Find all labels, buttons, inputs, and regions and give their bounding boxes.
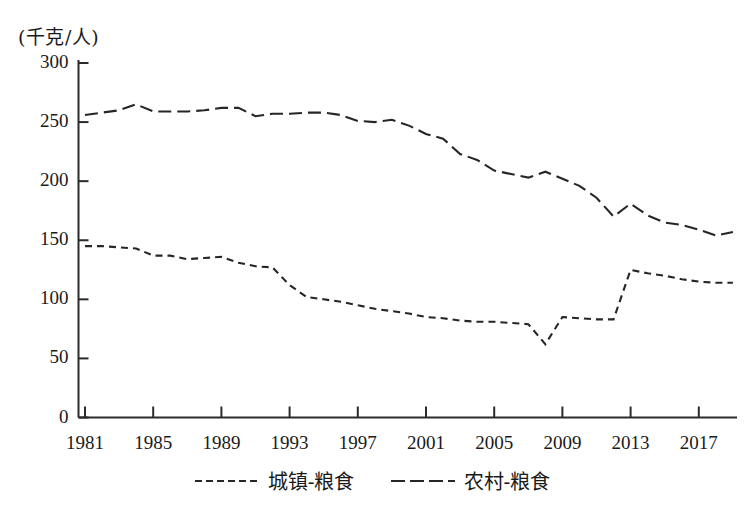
y-axis-unit-label: (千克/人)	[18, 22, 99, 49]
line-chart-plot	[0, 0, 745, 505]
series-line-urban	[85, 246, 733, 344]
x-axis-ticks	[85, 407, 699, 418]
legend-item-rural: 农村-粮食	[391, 466, 551, 495]
x-axis-tick-label: 2005	[464, 432, 524, 454]
x-axis-tick-label: 1989	[191, 432, 251, 454]
series-line-rural	[85, 104, 733, 235]
x-axis-tick-label: 2009	[532, 432, 592, 454]
y-axis-tick-label: 200	[19, 169, 69, 191]
y-axis-tick-label: 150	[19, 228, 69, 250]
legend-label-urban: 城镇-粮食	[268, 466, 355, 495]
chart-legend: 城镇-粮食 农村-粮食	[0, 466, 745, 495]
x-axis-tick-label: 1985	[123, 432, 183, 454]
x-axis-tick-label: 1981	[55, 432, 115, 454]
legend-label-rural: 农村-粮食	[464, 466, 551, 495]
y-axis-tick-label: 250	[19, 110, 69, 132]
data-series-layer	[85, 104, 733, 344]
y-axis-tick-label: 50	[19, 346, 69, 368]
x-axis-tick-label: 2013	[601, 432, 661, 454]
x-axis-tick-label: 1997	[328, 432, 388, 454]
legend-line-urban-icon	[195, 480, 259, 482]
x-axis-tick-label: 2017	[669, 432, 729, 454]
y-axis-ticks	[79, 63, 89, 418]
y-axis-tick-label: 100	[19, 287, 69, 309]
y-axis-tick-label: 0	[19, 406, 69, 428]
legend-item-urban: 城镇-粮食	[195, 466, 355, 495]
x-axis-tick-label: 1993	[260, 432, 320, 454]
axis-lines	[79, 60, 738, 418]
y-axis-tick-label: 300	[19, 51, 69, 73]
chart-container: (千克/人) 050100150200250300 19811985198919…	[0, 0, 745, 505]
x-axis-tick-label: 2001	[396, 432, 456, 454]
legend-line-rural-icon	[391, 480, 455, 482]
